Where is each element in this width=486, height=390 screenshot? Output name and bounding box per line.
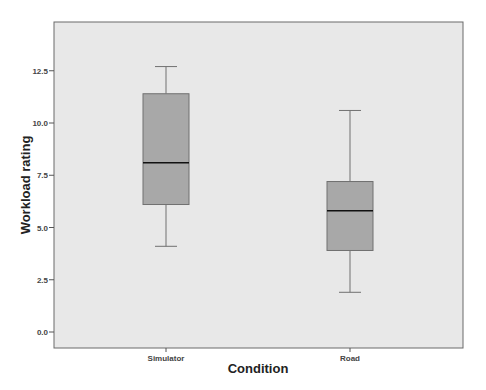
y-tick-label: 12.5 bbox=[32, 67, 48, 76]
y-axis: 0.02.55.07.510.012.5 bbox=[32, 67, 54, 337]
x-tick-label-simulator: Simulator bbox=[148, 354, 185, 363]
plot-area bbox=[54, 22, 463, 348]
box-plot-chart: 0.02.55.07.510.012.5 SimulatorRoad Workl… bbox=[0, 0, 486, 390]
y-axis-title: Workload rating bbox=[18, 136, 33, 235]
iqr-box bbox=[143, 94, 189, 205]
y-tick-label: 0.0 bbox=[37, 328, 49, 337]
y-tick-label: 7.5 bbox=[37, 171, 49, 180]
y-tick-label: 2.5 bbox=[37, 276, 49, 285]
x-axis-title: Condition bbox=[228, 361, 289, 376]
y-tick-label: 10.0 bbox=[32, 119, 48, 128]
iqr-box bbox=[327, 182, 373, 251]
x-tick-label-road: Road bbox=[340, 354, 360, 363]
y-tick-label: 5.0 bbox=[37, 224, 49, 233]
